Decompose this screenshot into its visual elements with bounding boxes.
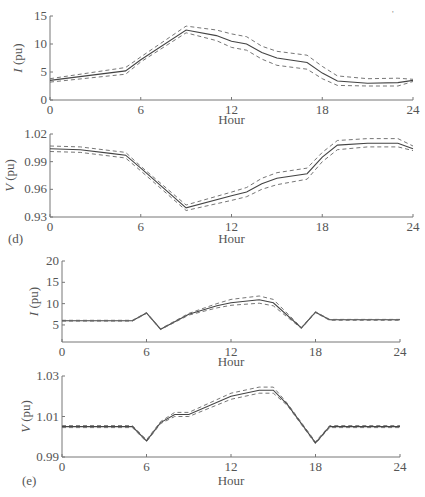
series-lower bbox=[62, 303, 400, 329]
x-axis-label: Hour bbox=[218, 473, 245, 488]
axes bbox=[62, 261, 400, 342]
x-tick-label: 12 bbox=[225, 459, 238, 474]
x-tick-label: 24 bbox=[407, 102, 421, 117]
y-axis-label: V (pu) bbox=[2, 159, 17, 192]
y-tick-label: 0.99 bbox=[36, 449, 59, 464]
x-tick-label: 6 bbox=[138, 219, 145, 234]
series-upper bbox=[50, 139, 413, 205]
y-tick-label: 1.02 bbox=[24, 126, 47, 141]
chart-current-d: 06121824051015HourI (pu) bbox=[10, 8, 420, 127]
series-mean bbox=[62, 300, 400, 329]
y-tick-label: 10 bbox=[46, 296, 59, 311]
chart-voltage-d: 061218240.930.960.991.02HourV (pu) bbox=[2, 126, 420, 246]
x-tick-label: 0 bbox=[47, 102, 54, 117]
series-upper bbox=[62, 296, 400, 329]
x-tick-label: 24 bbox=[394, 459, 408, 474]
y-tick-label: 0 bbox=[41, 92, 48, 107]
axes bbox=[50, 134, 413, 217]
x-tick-label: 0 bbox=[47, 219, 54, 234]
artifact-mark: ' bbox=[392, 9, 394, 19]
axes bbox=[62, 376, 400, 457]
y-axis-label: V (pu) bbox=[18, 400, 33, 433]
y-tick-label: 1.01 bbox=[36, 409, 59, 424]
y-tick-label: 10 bbox=[34, 36, 47, 51]
x-tick-label: 18 bbox=[309, 459, 322, 474]
y-tick-label: 0.93 bbox=[24, 209, 47, 224]
chart-voltage-e: 061218240.991.011.03HourV (pu) bbox=[18, 368, 407, 488]
x-axis-label: Hour bbox=[218, 112, 245, 127]
x-tick-label: 6 bbox=[143, 459, 150, 474]
x-tick-label: 0 bbox=[59, 459, 66, 474]
y-axis-label: I (pu) bbox=[10, 43, 25, 73]
x-tick-label: 6 bbox=[143, 344, 150, 359]
panel-label-d: (d) bbox=[8, 231, 23, 246]
series-mean bbox=[50, 143, 413, 208]
x-tick-label: 18 bbox=[309, 344, 322, 359]
y-tick-label: 5 bbox=[53, 317, 60, 332]
y-tick-label: 15 bbox=[46, 274, 59, 289]
series-lower bbox=[50, 147, 413, 211]
y-tick-label: 1.03 bbox=[36, 368, 59, 383]
panel-label-e: (e) bbox=[22, 473, 36, 488]
y-tick-label: 20 bbox=[46, 253, 59, 268]
x-tick-label: 24 bbox=[407, 219, 421, 234]
series-upper bbox=[50, 26, 413, 79]
x-tick-label: 0 bbox=[59, 344, 66, 359]
y-tick-label: 0.99 bbox=[24, 154, 47, 169]
series-mean bbox=[50, 30, 413, 83]
y-axis-label: I (pu) bbox=[26, 287, 41, 317]
x-tick-label: 18 bbox=[316, 219, 329, 234]
x-tick-label: 24 bbox=[394, 344, 408, 359]
x-axis-label: Hour bbox=[218, 231, 245, 246]
x-tick-label: 18 bbox=[316, 102, 329, 117]
series-lower bbox=[62, 393, 400, 444]
y-tick-label: 0.96 bbox=[24, 181, 47, 196]
x-axis-label: Hour bbox=[218, 354, 245, 369]
x-tick-label: 6 bbox=[138, 102, 145, 117]
figure-canvas: 06121824051015HourI (pu) 061218240.930.9… bbox=[0, 0, 425, 497]
series-upper bbox=[62, 387, 400, 442]
y-tick-label: 5 bbox=[41, 64, 48, 79]
y-tick-label: 15 bbox=[34, 8, 47, 23]
axes bbox=[50, 16, 413, 100]
series-mean bbox=[62, 390, 400, 443]
chart-current-e: 061218245101520HourI (pu) bbox=[26, 253, 407, 369]
